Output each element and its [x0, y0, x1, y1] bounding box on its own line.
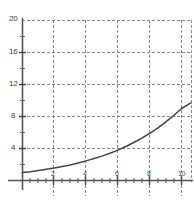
- x-tick-label-4: 4: [83, 170, 87, 177]
- x-tick-label-6: 6: [115, 170, 119, 177]
- chart-plot-svg: [0, 0, 194, 208]
- y-tick-label-12: 12: [9, 80, 17, 88]
- plot-background: [22, 20, 192, 182]
- y-tick-label-16: 16: [9, 48, 17, 56]
- x-tick-label-8: 8: [147, 170, 151, 177]
- y-tick-label-8: 8: [11, 112, 15, 120]
- chart-container: 20 16 12 8 4 2 4 6 8 10: [0, 0, 194, 208]
- x-tick-label-2: 2: [51, 170, 55, 177]
- x-tick-label-10: 10: [178, 170, 185, 177]
- y-tick-label-4: 4: [11, 144, 15, 152]
- y-tick-label-20: 20: [9, 15, 17, 23]
